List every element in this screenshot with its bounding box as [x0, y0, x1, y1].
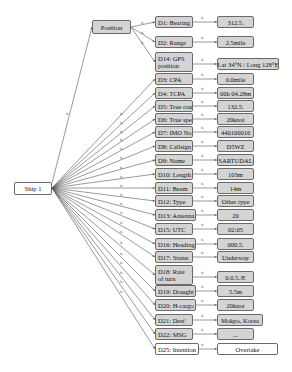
svg-text:is: is: [201, 285, 204, 289]
value-node-d7: 440100016: [217, 126, 254, 138]
value-node-d17: Underway: [217, 251, 254, 263]
attribute-label: D4: TCPA: [158, 90, 185, 97]
root-node-ship-1: Ship 1: [14, 182, 52, 195]
value-label: D5WZ: [226, 143, 244, 150]
value-node-d13: 20: [217, 209, 254, 221]
attribute-node-d8: D8: Callsign: [155, 140, 193, 152]
value-label: 20knot: [226, 302, 244, 309]
svg-text:is: is: [201, 271, 204, 275]
value-node-d9: SARTUDAL: [217, 154, 254, 166]
attribute-node-d12: D12: Type: [155, 195, 193, 207]
svg-text:is: is: [120, 202, 123, 206]
value-label: Overtake: [236, 346, 260, 353]
value-label: SARTUDAL: [218, 157, 252, 164]
attribute-label: D15: UTC: [158, 226, 186, 233]
attribute-node-d2: D2: Range: [155, 36, 193, 48]
value-node-d4: 00h 04.28m: [217, 87, 254, 99]
value-node-d12: Other type: [217, 195, 254, 207]
attribute-label: D10: Length: [158, 171, 191, 178]
svg-text:is: is: [201, 113, 204, 117]
value-node-d2: 2.5mile: [217, 36, 254, 48]
svg-text:is: is: [120, 280, 123, 284]
position-node: Position: [92, 20, 131, 34]
value-label: Other type: [222, 198, 250, 205]
attribute-node-d3: D3: CPA: [155, 73, 193, 85]
attribute-node-d17: D17: Status: [155, 251, 193, 263]
svg-text:is: is: [201, 238, 204, 242]
position-label: Position: [101, 24, 122, 31]
svg-text:is: is: [120, 241, 123, 245]
attribute-node-d19: D19: Draught: [155, 285, 196, 297]
svg-text:is: is: [201, 209, 204, 213]
svg-text:is: is: [201, 58, 204, 62]
attribute-label: D1: Bearing: [158, 19, 190, 26]
svg-text:is: is: [201, 195, 204, 199]
value-node-d10: 103m: [217, 168, 254, 180]
svg-text:is: is: [141, 41, 144, 45]
value-node-d14: Lat 34°N / Long 128°E: [217, 58, 279, 70]
value-label: ...: [233, 331, 238, 338]
svg-text:is: is: [201, 328, 204, 332]
attribute-node-d25: D25: Intention: [155, 343, 199, 355]
attribute-node-d22: D22: MSG: [155, 328, 193, 340]
attribute-label: D11: Beam: [158, 185, 188, 192]
svg-text:is: is: [120, 290, 123, 294]
svg-text:is: is: [66, 112, 69, 116]
attribute-node-d18: D18: Rate of turn: [155, 265, 193, 285]
attribute-label: D22: MSG: [158, 331, 187, 338]
value-node-d6: 20knot: [217, 113, 254, 125]
svg-text:is: is: [201, 154, 204, 158]
svg-text:is: is: [120, 156, 123, 160]
svg-text:is: is: [120, 147, 123, 151]
attribute-node-d4: D4: TCPA: [155, 87, 193, 99]
svg-text:is: is: [201, 16, 204, 20]
attribute-label: D14: GPS position: [158, 55, 190, 69]
svg-text:is: is: [201, 73, 204, 77]
value-node-d5: 132.5.: [217, 100, 254, 112]
attribute-label: D20: H-cargo: [158, 302, 194, 309]
value-label: Underway: [222, 254, 249, 261]
attribute-label: D5: True course: [158, 103, 193, 110]
svg-text:is: is: [201, 168, 204, 172]
svg-text:is: is: [120, 271, 123, 275]
value-node-d22: ...: [217, 328, 254, 340]
value-node-d16: 000.5.: [217, 238, 254, 250]
svg-text:is: is: [141, 31, 144, 35]
attribute-node-d15: D15: UTC: [155, 223, 193, 235]
value-label: 02:05: [228, 226, 243, 233]
value-node-d8: D5WZ: [217, 140, 254, 152]
svg-text:is: is: [120, 230, 123, 234]
svg-text:is: is: [120, 112, 123, 116]
svg-text:is: is: [201, 223, 204, 227]
svg-text:is: is: [120, 193, 123, 197]
value-node-d18: 0.0.5./E: [217, 271, 254, 283]
attribute-label: D2: Range: [158, 39, 186, 46]
attribute-node-d20: D20: H-cargo: [155, 299, 196, 311]
attribute-node-d11: D11: Beam: [155, 182, 193, 194]
value-label: 20: [232, 212, 239, 219]
attribute-label: D18: Rate of turn: [158, 268, 190, 282]
value-label: 5.5m: [229, 288, 242, 295]
value-label: 14m: [230, 185, 242, 192]
svg-text:is: is: [201, 36, 204, 40]
svg-text:is: is: [201, 299, 204, 303]
value-node-d1: 312.5.: [217, 16, 254, 28]
svg-text:is: is: [120, 221, 123, 225]
value-label: Mokpo, Korea: [221, 317, 259, 324]
svg-text:is: is: [201, 87, 204, 91]
value-node-d3: 0.0mile: [217, 73, 254, 85]
attribute-node-d16: D16: Heading: [155, 238, 196, 250]
value-label: Lat 34°N / Long 128°E: [218, 61, 279, 68]
attribute-node-d5: D5: True course: [155, 100, 193, 112]
attribute-label: D25: Intention: [158, 346, 196, 353]
value-label: 0.0.5./E: [225, 274, 245, 281]
svg-text:is: is: [201, 100, 204, 104]
attribute-label: D21: Dest': [158, 317, 186, 324]
svg-text:is: is: [201, 126, 204, 130]
svg-text:is: is: [120, 184, 123, 188]
attribute-node-d6: D6: True speed: [155, 113, 193, 125]
attribute-label: D12: Type: [158, 198, 185, 205]
attribute-label: D8: Callsign: [158, 143, 191, 150]
attribute-label: D17: Status: [158, 254, 189, 261]
attribute-label: D19: Draught: [158, 288, 194, 295]
